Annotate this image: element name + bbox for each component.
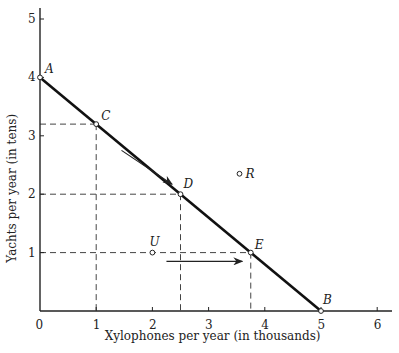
arrow-c-to-d	[121, 150, 172, 184]
point-r-marker	[237, 171, 242, 176]
dashed-guide-lines	[40, 124, 251, 311]
production-possibility-chart: 012345612345Xylophones per year (in thou…	[0, 0, 399, 353]
point-b-marker	[319, 309, 324, 314]
y-tick-label: 4	[28, 70, 36, 84]
point-a-label: A	[44, 62, 54, 76]
movement-arrows	[121, 150, 242, 261]
point-e-label: E	[254, 238, 264, 252]
axes	[40, 8, 392, 311]
point-r-label: R	[245, 167, 255, 181]
y-tick-label: 1	[28, 246, 36, 260]
point-d-label: D	[183, 177, 194, 191]
y-tick-label: 2	[28, 187, 36, 201]
point-a-marker	[38, 75, 43, 80]
axis-labels: 012345612345Xylophones per year (in thou…	[5, 12, 381, 343]
x-tick-label: 6	[374, 318, 382, 332]
x-axis-title: Xylophones per year (in thousands)	[105, 329, 321, 343]
y-tick-label: 5	[28, 12, 36, 26]
point-d-marker	[178, 192, 183, 197]
point-c-marker	[94, 122, 99, 127]
point-u-marker	[150, 250, 155, 255]
x-tick-label: 1	[93, 318, 101, 332]
point-b-label: B	[322, 293, 332, 307]
x-tick-label: 0	[36, 318, 44, 332]
point-c-label: C	[101, 109, 110, 123]
y-tick-label: 3	[28, 129, 36, 143]
point-e-marker	[248, 250, 253, 255]
y-axis-title: Yachts per year (in tens)	[5, 114, 19, 264]
point-u-label: U	[149, 235, 160, 249]
